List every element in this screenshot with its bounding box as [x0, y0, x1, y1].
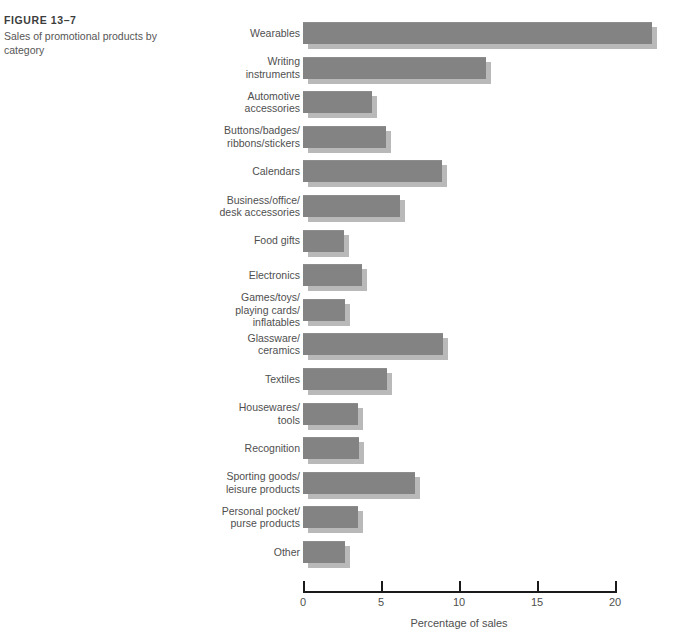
bar — [303, 230, 344, 252]
bar-row: Business/office/ desk accessories — [0, 191, 679, 221]
category-label: Recognition — [110, 442, 300, 454]
bar — [303, 299, 345, 321]
category-label: Writing instruments — [110, 55, 300, 80]
x-axis-tick-label: 5 — [366, 596, 396, 608]
bar — [303, 57, 486, 79]
bar-row: Games/toys/ playing cards/ inflatables — [0, 295, 679, 325]
x-axis-tick-label: 10 — [444, 596, 474, 608]
bar-row: Recognition — [0, 433, 679, 463]
bar-row: Textiles — [0, 364, 679, 394]
x-axis-line — [303, 591, 615, 593]
bar-row: Sporting goods/ leisure products — [0, 468, 679, 498]
bar-row: Buttons/badges/ ribbons/stickers — [0, 122, 679, 152]
category-label: Housewares/ tools — [110, 401, 300, 426]
bar-row: Other — [0, 537, 679, 567]
bar-fill — [303, 299, 345, 321]
bar-row: Wearables — [0, 18, 679, 48]
category-label: Automotive accessories — [110, 90, 300, 115]
category-label: Games/toys/ playing cards/ inflatables — [110, 291, 300, 328]
x-axis-tick-label: 0 — [288, 596, 318, 608]
bar-row: Glassware/ ceramics — [0, 329, 679, 359]
x-axis-tick — [537, 581, 539, 593]
x-axis-tick — [615, 581, 617, 593]
bar-fill — [303, 91, 372, 113]
category-label: Calendars — [110, 165, 300, 177]
x-axis-tick-label: 15 — [522, 596, 552, 608]
x-axis-tick — [303, 581, 305, 593]
x-axis-title: Percentage of sales — [303, 617, 615, 629]
bar-fill — [303, 160, 442, 182]
bar-row: Housewares/ tools — [0, 399, 679, 429]
bar — [303, 368, 387, 390]
category-label: Glassware/ ceramics — [110, 332, 300, 357]
bar-chart: WearablesWriting instrumentsAutomotive a… — [0, 0, 679, 642]
bar-fill — [303, 22, 652, 44]
bar-fill — [303, 368, 387, 390]
bar — [303, 91, 372, 113]
bar-fill — [303, 57, 486, 79]
bar-fill — [303, 437, 359, 459]
x-axis-tick — [381, 581, 383, 593]
bar — [303, 472, 415, 494]
bar — [303, 403, 358, 425]
bar — [303, 333, 443, 355]
bar — [303, 264, 362, 286]
category-label: Other — [110, 546, 300, 558]
bar-fill — [303, 541, 345, 563]
category-label: Buttons/badges/ ribbons/stickers — [110, 124, 300, 149]
bar-fill — [303, 126, 386, 148]
bar — [303, 22, 652, 44]
x-axis-tick — [459, 581, 461, 593]
bar-row: Personal pocket/ purse products — [0, 502, 679, 532]
bar-fill — [303, 264, 362, 286]
category-label: Business/office/ desk accessories — [110, 194, 300, 219]
bar-fill — [303, 333, 443, 355]
category-label: Food gifts — [110, 234, 300, 246]
bar-fill — [303, 472, 415, 494]
category-label: Wearables — [110, 27, 300, 39]
bar-row: Electronics — [0, 260, 679, 290]
bar — [303, 541, 345, 563]
bar — [303, 160, 442, 182]
bar-fill — [303, 403, 358, 425]
x-axis-tick-label: 20 — [600, 596, 630, 608]
bar — [303, 437, 359, 459]
bar-row: Writing instruments — [0, 53, 679, 83]
category-label: Electronics — [110, 269, 300, 281]
bar — [303, 195, 400, 217]
bar — [303, 506, 358, 528]
bar — [303, 126, 386, 148]
bar-row: Food gifts — [0, 226, 679, 256]
bar-row: Calendars — [0, 156, 679, 186]
bar-fill — [303, 506, 358, 528]
category-label: Textiles — [110, 373, 300, 385]
bar-row: Automotive accessories — [0, 87, 679, 117]
category-label: Personal pocket/ purse products — [110, 505, 300, 530]
category-label: Sporting goods/ leisure products — [110, 470, 300, 495]
bar-fill — [303, 195, 400, 217]
bar-fill — [303, 230, 344, 252]
